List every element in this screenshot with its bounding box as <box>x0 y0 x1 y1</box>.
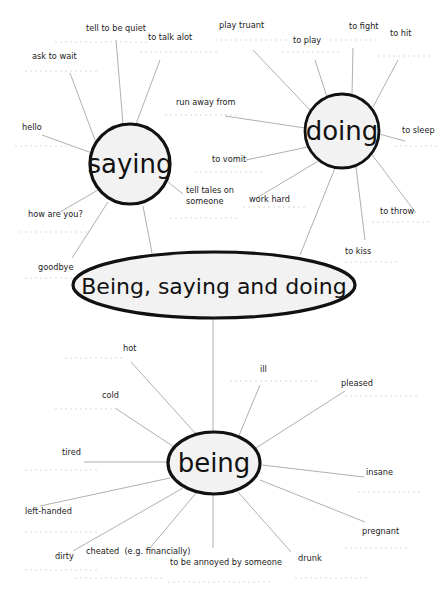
item-to-throw: to throw <box>380 206 414 216</box>
saying-node: saying <box>87 124 172 204</box>
item-someone: someone <box>186 196 224 206</box>
item-insane: insane <box>366 467 393 477</box>
item-drunk: drunk <box>298 553 322 563</box>
item-ill: ill <box>260 364 267 374</box>
item-cold: cold <box>102 390 119 400</box>
title-label: Being, saying and doing <box>81 274 346 299</box>
item-tired: tired <box>62 447 81 457</box>
item-hot: hot <box>123 343 137 353</box>
item-play-truant: play truant <box>219 20 265 30</box>
item-hello: hello <box>22 122 42 132</box>
item-ask-to-wait: ask to wait <box>32 51 77 61</box>
item-to-play: to play <box>293 35 321 45</box>
doing-node: doing <box>305 94 379 168</box>
item-to-fight: to fight <box>349 21 379 31</box>
item-work-hard: work hard <box>249 194 290 204</box>
saying-label: saying <box>87 149 172 179</box>
title-node: Being, saying and doing <box>73 252 355 318</box>
item-pregnant: pregnant <box>362 526 400 536</box>
item-dirty: dirty <box>55 551 74 561</box>
item-cheated: cheated (e.g. financially) <box>86 546 191 556</box>
item-to-talk-alot: to talk alot <box>148 32 193 42</box>
item-pleased: pleased <box>341 378 373 388</box>
mind-map: saying doing Being, saying and doing bei… <box>0 0 447 597</box>
item-goodbye: goodbye <box>38 262 74 272</box>
item-how-are-you: how are you? <box>28 209 83 219</box>
doing-label: doing <box>306 116 379 146</box>
item-to-sleep: to sleep <box>402 125 435 135</box>
being-node: being <box>168 432 260 494</box>
item-tell-tales-on: tell tales on <box>186 185 234 195</box>
being-label: being <box>178 448 251 478</box>
item-to-kiss: to kiss <box>345 246 371 256</box>
item-to-be-annoyed: to be annoyed by someone <box>170 557 282 567</box>
item-to-hit: to hit <box>390 28 412 38</box>
item-left-handed: left-handed <box>25 506 72 516</box>
item-run-away-from: run away from <box>176 97 236 107</box>
item-to-vomit: to vomit <box>212 154 247 164</box>
item-tell-to-be-quiet: tell to be quiet <box>86 23 147 33</box>
